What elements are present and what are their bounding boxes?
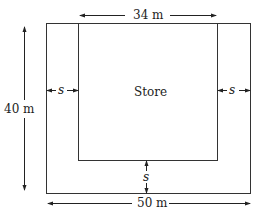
- diagram-canvas: [0, 0, 261, 217]
- right-gap-label: s: [229, 84, 235, 96]
- store-label: Store: [134, 86, 167, 98]
- side-dimension-label: 40 m: [4, 103, 34, 115]
- outer-lot: [47, 24, 251, 194]
- top-dimension-label: 34 m: [131, 9, 165, 21]
- bottom-gap-label: s: [143, 171, 149, 183]
- bottom-dimension-label: 50 m: [135, 197, 169, 209]
- left-gap-label: s: [58, 84, 64, 96]
